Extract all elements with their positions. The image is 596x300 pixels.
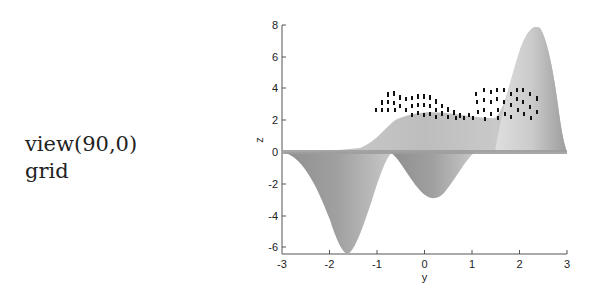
z-axis-ticks: 8 6 4 2 0 -2 -4 -6	[268, 19, 286, 253]
svg-text:2: 2	[272, 114, 278, 126]
svg-text:6: 6	[272, 51, 278, 63]
svg-text:0: 0	[421, 258, 427, 270]
svg-text:-2: -2	[325, 258, 335, 270]
svg-text:-3: -3	[277, 258, 287, 270]
svg-text:8: 8	[272, 19, 278, 31]
svg-text:-6: -6	[268, 241, 278, 253]
svg-text:3: 3	[564, 258, 570, 270]
surface-trough-right	[390, 152, 475, 198]
svg-text:-4: -4	[268, 210, 278, 222]
surface-zero-band	[282, 150, 567, 154]
surface-plot: 8 6 4 2 0 -2 -4 -6 z -3 -2 -1 0 1 2 3 y	[0, 0, 596, 300]
z-axis-label: z	[253, 137, 265, 143]
surface-peak	[495, 27, 567, 152]
y-axis-ticks: -3 -2 -1 0 1 2 3	[277, 250, 570, 270]
svg-text:2: 2	[516, 258, 522, 270]
surface-trough-left	[282, 152, 392, 254]
svg-text:-2: -2	[268, 178, 278, 190]
svg-text:4: 4	[272, 82, 278, 94]
svg-text:0: 0	[272, 146, 278, 158]
y-axis-label: y	[422, 271, 428, 283]
svg-text:1: 1	[469, 258, 475, 270]
svg-text:-1: -1	[372, 258, 382, 270]
